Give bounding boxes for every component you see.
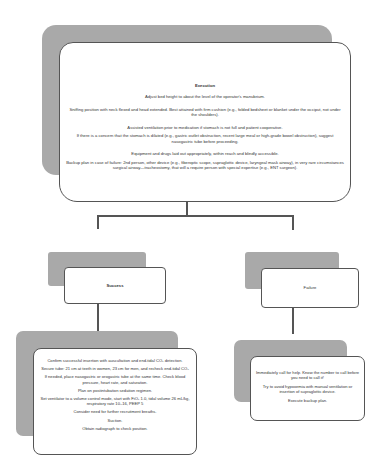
failure-item: Immediately call for help. Know the numb… [255,370,360,380]
execution-item: Assisted ventilation prior to medication… [66,125,344,130]
execution-item: Backup plan in case of failure: 2nd pers… [66,160,344,171]
connector-line [292,307,294,334]
execution-box: Execution Adjust bed height to about the… [59,42,351,202]
success-title: Success [107,283,124,288]
execution-item: Sniffing position with neck flexed and h… [66,107,344,118]
connector-line [292,215,294,230]
success-box: Success [64,267,166,304]
failure-item: Execute backup plan. [255,398,360,403]
connector-line [97,215,293,217]
success-details-box: Confirm successful insertion with auscul… [33,348,197,455]
execution-item: Equipment and drugs laid out appropriate… [66,151,344,156]
execution-item: If there is a concern that the stomach i… [66,133,344,144]
connector-line [97,303,99,333]
success-item: Suction. [38,418,192,423]
failure-box: Failure [261,268,359,308]
success-item: Consider need for further recruitment br… [38,409,192,414]
failure-title: Failure [304,285,317,290]
success-item: Obtain radiograph to check position. [38,426,192,431]
execution-item: Adjust bed height to about the level of … [66,94,344,99]
success-item: Set ventilator to a volume control mode,… [38,396,192,406]
failure-details-box: Immediately call for help. Know the numb… [250,356,365,421]
success-item: Confirm successful insertion with auscul… [38,358,192,363]
success-item: If needed, place nasogastric or orogastr… [38,374,192,384]
execution-title: Execution [66,83,344,88]
success-item: Plan on postintubation sedation regimen. [38,388,192,393]
connector-line [97,215,99,229]
connector-line [186,201,188,216]
failure-item: Try to avoid hypoxemia with manual venti… [255,384,360,394]
success-item: Secure tube: 21 cm at teeth in women, 23… [38,366,192,371]
